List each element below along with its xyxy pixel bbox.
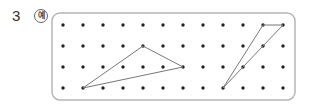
grid-dot bbox=[261, 86, 264, 89]
grid-shapes bbox=[83, 25, 283, 88]
grid-dot bbox=[101, 44, 104, 47]
grid-dot bbox=[61, 65, 64, 68]
grid-dot bbox=[281, 65, 284, 68]
triangle-right bbox=[223, 25, 283, 88]
grid-dot bbox=[221, 44, 224, 47]
grid-dot bbox=[241, 44, 244, 47]
grid-dot bbox=[181, 86, 184, 89]
grid-dot bbox=[81, 44, 84, 47]
grid-dot bbox=[161, 44, 164, 47]
grid-dot bbox=[121, 65, 124, 68]
grid-dot bbox=[61, 23, 64, 26]
grid-dot bbox=[81, 23, 84, 26]
grid-dot bbox=[241, 23, 244, 26]
grid-dot bbox=[161, 23, 164, 26]
grid-dot bbox=[141, 23, 144, 26]
grid-dot bbox=[141, 86, 144, 89]
grid-dot bbox=[261, 65, 264, 68]
grid-dot bbox=[281, 86, 284, 89]
dot-grid-board bbox=[0, 0, 310, 106]
grid-dot bbox=[181, 23, 184, 26]
grid-dot bbox=[101, 23, 104, 26]
grid-dot bbox=[161, 65, 164, 68]
grid-dot bbox=[201, 23, 204, 26]
grid-dot bbox=[201, 44, 204, 47]
grid-dot bbox=[221, 65, 224, 68]
grid-dot bbox=[81, 65, 84, 68]
grid-dot bbox=[281, 44, 284, 47]
grid-dot bbox=[61, 86, 64, 89]
grid-dot bbox=[181, 44, 184, 47]
grid-dot bbox=[121, 86, 124, 89]
grid-dot bbox=[101, 86, 104, 89]
grid-dot bbox=[121, 44, 124, 47]
grid-dot bbox=[241, 86, 244, 89]
grid-dot bbox=[121, 23, 124, 26]
grid-dot bbox=[221, 23, 224, 26]
grid-dot bbox=[161, 86, 164, 89]
grid-dot bbox=[201, 65, 204, 68]
grid-dot bbox=[141, 65, 144, 68]
grid-dot bbox=[61, 44, 64, 47]
triangle-left bbox=[83, 46, 183, 88]
grid-dot bbox=[101, 65, 104, 68]
grid-dot bbox=[201, 86, 204, 89]
